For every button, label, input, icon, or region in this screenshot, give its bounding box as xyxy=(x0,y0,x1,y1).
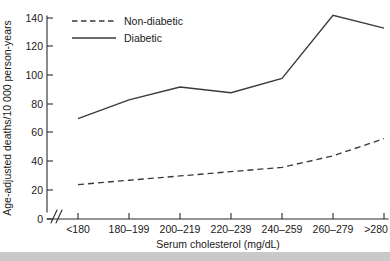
y-tick-label: 100 xyxy=(25,69,43,81)
chart-figure: 140 120 100 80 60 40 20 0 <180 180–199 2… xyxy=(0,0,390,261)
x-tick-label: 220–239 xyxy=(211,223,252,235)
series-line-non-diabetic xyxy=(78,139,384,185)
y-tick-label: 40 xyxy=(31,155,43,167)
y-axis-ticks xyxy=(47,18,53,219)
y-tick-label: 120 xyxy=(25,40,43,52)
x-axis-ticks xyxy=(78,213,384,219)
y-tick-label: 140 xyxy=(25,12,43,24)
y-tick-label: 20 xyxy=(31,184,43,196)
series-line-diabetic xyxy=(78,15,384,118)
x-tick-label: 240–259 xyxy=(262,223,303,235)
chart-legend: Non-diabetic Diabetic xyxy=(72,15,183,44)
legend-label-diabetic: Diabetic xyxy=(124,32,162,44)
y-axis-title: Age-adjusted deaths/10 000 person-years xyxy=(1,20,13,216)
x-axis-title: Serum cholesterol (mg/dL) xyxy=(156,238,280,250)
legend-label-non-diabetic: Non-diabetic xyxy=(124,15,183,27)
line-chart-svg: 140 120 100 80 60 40 20 0 <180 180–199 2… xyxy=(0,0,390,261)
x-tick-label: >280 xyxy=(364,223,388,235)
x-tick-label: 200–219 xyxy=(160,223,201,235)
footer-bar xyxy=(0,252,390,261)
y-tick-label: 0 xyxy=(37,213,43,225)
y-tick-label: 60 xyxy=(31,126,43,138)
x-tick-label: 180–199 xyxy=(109,223,150,235)
y-tick-label: 80 xyxy=(31,98,43,110)
axis-break-icon xyxy=(51,210,62,223)
x-tick-label: <180 xyxy=(66,223,90,235)
x-tick-label: 260–279 xyxy=(313,223,354,235)
